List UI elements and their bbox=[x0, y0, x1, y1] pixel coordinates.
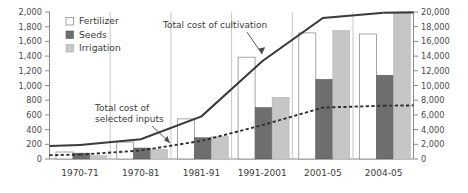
bar-seeds bbox=[255, 108, 272, 160]
right-axis-tick-label: 10,000 bbox=[421, 81, 450, 91]
right-axis-tick-label: 6,000 bbox=[421, 110, 444, 120]
legend-swatch-irrigation-icon bbox=[66, 45, 74, 53]
category-label: 1970-81 bbox=[122, 168, 160, 178]
chart-svg: 2,000 1,800 1,600 1,400 1,200 1,000 800 … bbox=[0, 0, 468, 193]
left-axis-tick-label: 0 bbox=[37, 154, 42, 164]
left-axis-tick-label: 1,600 bbox=[19, 36, 42, 46]
category-label: 1981-91 bbox=[183, 168, 221, 178]
bar-seeds bbox=[316, 79, 333, 159]
legend-label-seeds: Seeds bbox=[79, 29, 107, 40]
bar-group bbox=[238, 57, 289, 159]
left-axis-tick-label: 600 bbox=[26, 110, 42, 120]
bar-fertilizer bbox=[238, 57, 255, 159]
left-axis-tick-label: 2,000 bbox=[19, 7, 42, 17]
bar-seeds bbox=[377, 75, 394, 159]
category-label: 2004-05 bbox=[365, 168, 403, 178]
bar-irrigation bbox=[333, 30, 350, 159]
bar-group bbox=[299, 30, 350, 159]
legend-swatch-seeds-icon bbox=[66, 31, 74, 39]
category-label: 1970-71 bbox=[61, 168, 99, 178]
category-label: 1991-2001 bbox=[238, 168, 287, 178]
right-axis-tick-label: 20,000 bbox=[421, 7, 450, 17]
annotation-leader-line bbox=[247, 32, 262, 54]
bar-fertilizer bbox=[360, 34, 377, 159]
annotation-label-inputs-line1: Total cost of bbox=[94, 103, 150, 113]
left-axis-tick-label: 200 bbox=[26, 139, 42, 149]
bar-fertilizer bbox=[299, 33, 316, 159]
bar-group bbox=[177, 119, 228, 159]
right-axis: 20,000 18,000 16,000 14,000 12,000 10,00… bbox=[414, 7, 450, 164]
annotation-arrowhead-icon bbox=[164, 136, 170, 143]
left-axis-tick-label: 400 bbox=[26, 125, 42, 135]
bar-irrigation bbox=[272, 97, 289, 159]
chart-container: 2,000 1,800 1,600 1,400 1,200 1,000 800 … bbox=[0, 0, 468, 193]
chart-legend: Fertilizer Seeds Irrigation bbox=[66, 15, 121, 53]
legend-label-irrigation: Irrigation bbox=[79, 42, 121, 53]
bar-irrigation bbox=[90, 156, 107, 159]
left-axis-tick-label: 1,400 bbox=[19, 51, 42, 61]
legend-label-fertilizer: Fertilizer bbox=[79, 15, 119, 26]
category-label: 2001-05 bbox=[304, 168, 342, 178]
right-axis-tick-label: 4,000 bbox=[421, 125, 444, 135]
bar-fertilizer bbox=[56, 152, 73, 159]
line-total-cost-cultivation-head bbox=[50, 145, 81, 146]
right-axis-tick-label: 14,000 bbox=[421, 51, 450, 61]
annotation-label-inputs-line2: selected inputs bbox=[95, 114, 164, 124]
bar-irrigation bbox=[151, 149, 168, 159]
right-axis-tick-label: 16,000 bbox=[421, 36, 450, 46]
legend-swatch-fertilizer-icon bbox=[66, 18, 74, 26]
left-axis-tick-label: 800 bbox=[26, 95, 42, 105]
left-axis-tick-label: 1,800 bbox=[19, 22, 42, 32]
bar-irrigation bbox=[211, 137, 228, 159]
right-axis-tick-label: 0 bbox=[421, 154, 426, 164]
annotation-label-cultivation: Total cost of cultivation bbox=[162, 20, 267, 30]
right-axis-tick-label: 18,000 bbox=[421, 22, 450, 32]
right-axis-tick-label: 2,000 bbox=[421, 139, 444, 149]
annotation-total-cost-selected-inputs: Total cost of selected inputs bbox=[94, 103, 170, 143]
right-axis-tick-label: 12,000 bbox=[421, 66, 450, 76]
left-axis-tick-label: 1,000 bbox=[19, 81, 42, 91]
annotation-total-cost-cultivation: Total cost of cultivation bbox=[162, 20, 267, 54]
bar-irrigation bbox=[394, 14, 411, 159]
bar-group bbox=[360, 14, 411, 159]
left-axis-tick-label: 1,200 bbox=[19, 66, 42, 76]
right-axis-tick-label: 8,000 bbox=[421, 95, 444, 105]
left-axis: 2,000 1,800 1,600 1,400 1,200 1,000 800 … bbox=[19, 7, 50, 164]
